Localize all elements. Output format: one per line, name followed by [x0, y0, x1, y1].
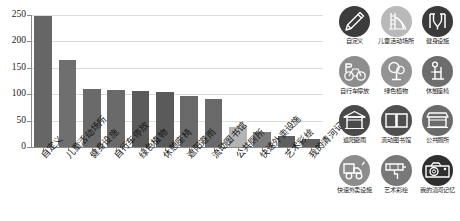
legend-item[interactable]: 自行车停放 [334, 56, 375, 95]
y-axis-tick-mark [27, 15, 31, 16]
y-axis-line [31, 15, 32, 148]
legend-item-label: 休憩座椅 [417, 88, 458, 95]
seating-bench-icon [422, 56, 453, 87]
gridline [31, 15, 323, 16]
legend-item-label: 艺术彩绘 [376, 187, 417, 194]
legend-item-label: 自定义 [334, 38, 375, 45]
y-axis-tick-label: 100 [0, 89, 26, 99]
legend-item[interactable]: 快速外卖设施 [334, 155, 375, 194]
legend-item-label: 快速外卖设施 [334, 187, 375, 194]
delivery-vehicle-icon [339, 155, 370, 186]
chart-screenshot: 050100150200250自定义儿童活动场所健身设施自行车停放绿色植物休憩座… [0, 0, 460, 221]
legend-item[interactable]: 遮阳避雨 [334, 105, 375, 144]
pencil-icon [339, 6, 370, 37]
legend-item-label: 儿童活动场所 [376, 38, 417, 45]
legend-item[interactable]: 艺术彩绘 [376, 155, 417, 194]
y-axis-tick-mark [27, 68, 31, 69]
y-axis-tick-mark [27, 121, 31, 122]
legend-row: 自定义儿童活动场所健身设施 [334, 6, 458, 55]
y-axis-tick-mark [27, 41, 31, 42]
shelter-pavilion-icon [339, 105, 370, 136]
legend-row: 自行车停放绿色植物休憩座椅 [334, 56, 458, 105]
legend-item[interactable]: 流动图书馆 [376, 105, 417, 144]
legend-item-label: 公共厕所 [417, 137, 458, 144]
y-axis-tick-label: 0 [0, 142, 26, 152]
playground-slide-icon [381, 6, 412, 37]
legend-item[interactable]: 我的清河记忆 [417, 155, 458, 194]
bicycle-parking-icon [339, 56, 370, 87]
bar-chart-panel: 050100150200250自定义儿童活动场所健身设施自行车停放绿色植物休憩座… [0, 0, 330, 221]
legend-item[interactable]: 自定义 [334, 6, 375, 45]
camera-icon [422, 155, 453, 186]
legend-item[interactable]: 儿童活动场所 [376, 6, 417, 45]
y-axis-tick-mark [27, 94, 31, 95]
legend-item-label: 流动图书馆 [376, 137, 417, 144]
public-toilet-kiosk-icon [422, 105, 453, 136]
y-axis-tick-label: 150 [0, 63, 26, 73]
legend-item[interactable]: 公共厕所 [417, 105, 458, 144]
legend-item-label: 自行车停放 [334, 88, 375, 95]
gridline [31, 41, 323, 42]
fitness-equipment-icon [422, 6, 453, 37]
y-axis-tick-mark [27, 147, 31, 148]
legend-item-label: 健身设施 [417, 38, 458, 45]
legend-panel: 自定义儿童活动场所健身设施自行车停放绿色植物休憩座椅遮阳避雨流动图书馆公共厕所快… [334, 6, 458, 210]
y-axis-tick-label: 250 [0, 10, 26, 20]
legend-item[interactable]: 健身设施 [417, 6, 458, 45]
legend-item-label: 我的清河记忆 [417, 187, 458, 194]
open-book-icon [381, 105, 412, 136]
legend-item[interactable]: 绿色植物 [376, 56, 417, 95]
plot-area [31, 15, 323, 147]
legend-item[interactable]: 休憩座椅 [417, 56, 458, 95]
bar[interactable] [34, 16, 52, 147]
y-axis-tick-label: 200 [0, 36, 26, 46]
legend-item-label: 遮阳避雨 [334, 137, 375, 144]
tree-plant-icon [381, 56, 412, 87]
legend-row: 快速外卖设施艺术彩绘我的清河记忆 [334, 155, 458, 204]
y-axis-tick-label: 50 [0, 116, 26, 126]
bar[interactable] [59, 60, 77, 147]
legend-row: 遮阳避雨流动图书馆公共厕所 [334, 105, 458, 154]
legend-item-label: 绿色植物 [376, 88, 417, 95]
paint-roller-icon [381, 155, 412, 186]
